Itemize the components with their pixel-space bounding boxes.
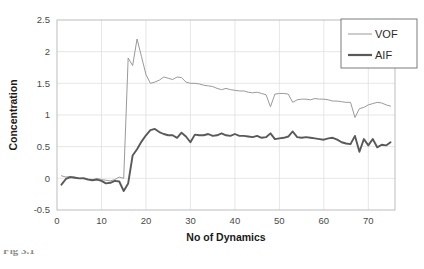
legend-label-vof[interactable]: VOF xyxy=(375,28,398,40)
y-tick-label: 1 xyxy=(45,109,50,120)
x-tick-label: 40 xyxy=(230,215,241,226)
y-tick-label: 2.5 xyxy=(37,14,50,25)
x-tick-label: 60 xyxy=(319,215,330,226)
y-axis-title: Concentration xyxy=(7,79,19,150)
x-tick-label: 70 xyxy=(363,215,374,226)
y-tick-label: 0 xyxy=(45,173,50,184)
legend-label-aif[interactable]: AIF xyxy=(375,49,392,61)
x-tick-label: 50 xyxy=(274,215,285,226)
y-tick-label: 0.5 xyxy=(37,141,50,152)
chart-legend[interactable]: VOFAIF xyxy=(341,19,417,68)
y-tick-label: 1.5 xyxy=(37,78,50,89)
x-axis-tick-labels: 010203040506070 xyxy=(54,215,373,226)
x-tick-label: 20 xyxy=(141,215,152,226)
figure-root: -0.500.511.522.5 010203040506070 Concent… xyxy=(0,0,424,269)
y-tick-label: -0.5 xyxy=(34,204,50,215)
figure-caption-strip: Fig 3.1 xyxy=(0,250,424,269)
x-axis-title: No of Dynamics xyxy=(186,231,266,243)
line-chart: -0.500.511.522.5 010203040506070 Concent… xyxy=(0,0,424,248)
y-tick-label: 2 xyxy=(45,46,50,57)
chart-svg: -0.500.511.522.5 010203040506070 Concent… xyxy=(0,0,424,248)
y-axis-tick-labels: -0.500.511.522.5 xyxy=(34,14,50,215)
x-tick-label: 30 xyxy=(185,215,196,226)
x-tick-label: 10 xyxy=(96,215,107,226)
x-tick-label: 0 xyxy=(54,215,59,226)
figure-caption: Fig 3.1 xyxy=(3,250,35,256)
